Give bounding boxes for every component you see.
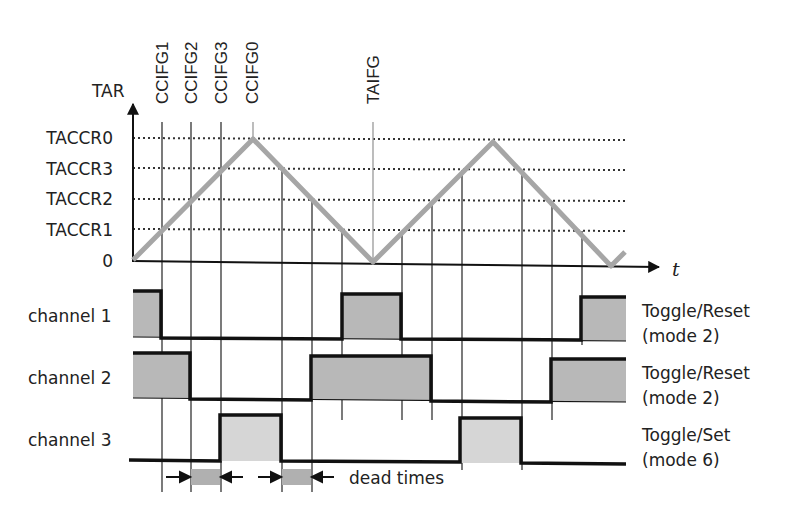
timer-diagram: TAR t TACCR0 TACCR3 TACCR2 TACCR1 0 CCIF… <box>0 0 793 512</box>
channel-3-label: channel 3 <box>28 430 112 450</box>
channel-3-mode-line1: Toggle/Set <box>641 425 731 445</box>
flag-label-ccifg1: CCIFG1 <box>153 42 172 104</box>
counter-waveform <box>133 139 625 266</box>
channel-2-mode-line1: Toggle/Reset <box>641 363 750 383</box>
level-label-taccr0: TACCR0 <box>45 128 113 148</box>
x-axis-label: t <box>672 258 680 280</box>
channel-1-mode-line1: Toggle/Reset <box>641 301 750 321</box>
level-labels: TACCR0 TACCR3 TACCR2 TACCR1 0 <box>45 128 113 271</box>
level-label-taccr3: TACCR3 <box>45 159 113 179</box>
level-label-zero: 0 <box>102 251 113 271</box>
channel-1-mode-line2: (mode 2) <box>642 326 720 346</box>
channel-2-mode-line2: (mode 2) <box>642 388 720 408</box>
mode-labels: Toggle/Reset (mode 2) Toggle/Reset (mode… <box>641 301 750 470</box>
flag-labels: CCIFG1 CCIFG2 CCIFG3 CCIFG0 TAIFG <box>153 42 383 104</box>
channel-3-waveform <box>129 415 626 464</box>
channel-2-waveform <box>133 353 626 402</box>
flag-label-ccifg3: CCIFG3 <box>212 42 231 104</box>
channel-3-mode-line2: (mode 6) <box>642 450 720 470</box>
channel-1-label: channel 1 <box>28 306 112 326</box>
level-label-taccr2: TACCR2 <box>45 189 113 209</box>
flag-label-ccifg0: CCIFG0 <box>243 42 262 104</box>
flag-label-ccifg2: CCIFG2 <box>182 42 201 104</box>
y-axis-label: TAR <box>91 81 125 101</box>
x-axis <box>133 261 659 267</box>
flag-label-taifg: TAIFG <box>364 55 383 104</box>
channel-2-label: channel 2 <box>28 368 112 388</box>
level-label-taccr1: TACCR1 <box>45 220 113 240</box>
dead-time-markers <box>166 469 334 485</box>
dead-times-label: dead times <box>349 468 444 488</box>
